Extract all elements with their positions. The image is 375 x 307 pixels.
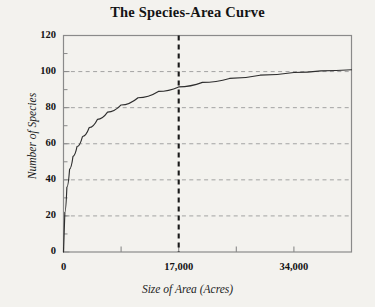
y-tick-label-20: 20 [8, 209, 56, 220]
x-tick-label-0: 0 [14, 261, 114, 272]
x-axis-title: Size of Area (Acres) [0, 283, 375, 295]
gridlines-group [64, 72, 352, 216]
y-tick-label-120: 120 [8, 29, 56, 40]
y-tick-label-80: 80 [8, 101, 56, 112]
x-tick-label-17000: 17,000 [129, 261, 229, 272]
species-area-curve [64, 70, 352, 252]
y-tick-label-40: 40 [8, 173, 56, 184]
y-tick-label-0: 0 [8, 245, 56, 256]
species-area-chart-figure: The Species-Area Curve Number of Species… [0, 0, 375, 307]
y-tick-label-60: 60 [8, 137, 56, 148]
y-tick-label-100: 100 [8, 65, 56, 76]
x-tick-label-34000: 34,000 [244, 261, 344, 272]
